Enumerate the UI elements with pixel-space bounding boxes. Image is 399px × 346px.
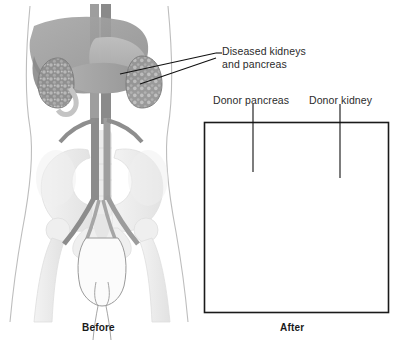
diseased-kidney-right (38, 58, 74, 108)
before-panel-illustration (10, 4, 188, 340)
after-panel-border (205, 123, 389, 313)
donor-pancreas (230, 132, 288, 234)
skeleton-after (236, 182, 360, 318)
label-diseased-line2: and pancreas (222, 58, 306, 71)
donor-kidney (300, 157, 368, 264)
leader-lines-donor (253, 104, 340, 178)
label-diseased-kidneys-pancreas: Diseased kidneys and pancreas (222, 45, 306, 71)
after-panel-illustration (211, 110, 383, 322)
label-diseased-line1: Diseased kidneys (222, 45, 306, 58)
illustration-canvas (0, 0, 399, 346)
kidney-pancreas-transplant-figure: Diseased kidneys and pancreas Donor panc… (0, 0, 399, 346)
body-outline-after (211, 110, 383, 314)
great-vessels-after (266, 118, 328, 276)
label-donor-kidney: Donor kidney (309, 94, 372, 107)
caption-after: After (280, 322, 304, 333)
diseased-kidney-left (126, 56, 162, 108)
bladder-after (276, 268, 314, 322)
label-donor-pancreas: Donor pancreas (213, 94, 289, 107)
caption-before: Before (82, 322, 115, 333)
